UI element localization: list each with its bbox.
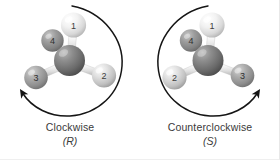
atom-3-s: 3 [231, 64, 255, 88]
atom-1-s-label: 1 [209, 21, 214, 31]
atom-4-s-label: 4 [188, 36, 193, 46]
atom-4-r-label: 4 [50, 36, 55, 46]
center-atom-s [193, 45, 224, 76]
atom-3-s-label: 3 [240, 71, 245, 81]
atom-2-s: 2 [162, 65, 186, 89]
caption-clockwise: Clockwise [0, 121, 140, 133]
atom-3-r: 3 [24, 66, 48, 90]
atom-2-r: 2 [92, 63, 116, 87]
atom-1-s: 1 [199, 12, 224, 37]
panel-clockwise-r: 4 1 2 3 [0, 0, 140, 160]
caption-counterclockwise: Counterclockwise [140, 121, 280, 133]
center-atom-r [54, 45, 85, 76]
caption-r-descriptor: (R) [0, 135, 140, 147]
panel-counterclockwise-s: 4 1 2 3 [140, 0, 280, 160]
atom-1-r-label: 1 [71, 21, 76, 31]
caption-s-descriptor: (S) [140, 135, 280, 147]
atom-2-r-label: 2 [101, 71, 106, 81]
atom-1-r: 1 [61, 12, 86, 37]
chirality-figure: 4 1 2 3 [0, 0, 280, 160]
atom-3-r-label: 3 [33, 73, 38, 83]
atom-2-s-label: 2 [172, 73, 177, 83]
